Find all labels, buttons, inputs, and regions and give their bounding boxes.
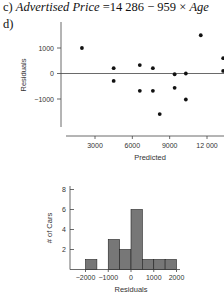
residual-histogram: 2468−2000−1000010002000Residuals# of Car… [45, 186, 184, 294]
histogram-bar [142, 260, 153, 270]
hist-x-tick-label: 2000 [169, 274, 185, 281]
hist-x-tick-label: 0 [129, 274, 133, 281]
data-point [199, 33, 203, 37]
histogram-bar [86, 260, 97, 270]
x-tick-label: 3000 [87, 142, 103, 149]
data-point [158, 112, 162, 116]
data-point [112, 79, 116, 83]
data-point [138, 63, 142, 67]
hist-x-axis-title: Residuals [115, 285, 148, 294]
data-point [173, 72, 177, 76]
data-point [221, 56, 224, 60]
x-axis-title: Predicted [134, 153, 166, 162]
residual-scatter-plot: 10000−100030006000900012 000PredictedRes… [19, 22, 224, 162]
data-point [138, 89, 142, 93]
data-point [184, 72, 188, 76]
histogram-bar [131, 210, 142, 270]
histogram-bar [120, 250, 131, 270]
x-tick-label: 12 000 [196, 142, 218, 149]
y-axis-title: Residuals [19, 58, 28, 91]
hist-y-tick-label: 2 [62, 246, 66, 253]
data-point [184, 98, 188, 102]
histogram-bar [154, 260, 165, 270]
hist-x-tick-label: −2000 [76, 274, 96, 281]
x-tick-label: 9000 [162, 142, 178, 149]
x-tick-label: 6000 [125, 142, 141, 149]
hist-x-tick-label: −1000 [98, 274, 118, 281]
hist-x-tick-label: 1000 [146, 274, 162, 281]
hist-y-axis-title: # of Cars [45, 213, 54, 244]
hist-y-tick-label: 8 [62, 186, 66, 193]
data-point [221, 69, 224, 73]
hist-y-tick-label: 4 [62, 226, 66, 233]
data-point [151, 89, 155, 93]
data-point [173, 86, 177, 90]
y-tick-label: −1000 [34, 96, 54, 103]
data-point [112, 66, 116, 70]
hist-y-tick-label: 6 [62, 206, 66, 213]
data-point [151, 66, 155, 70]
histogram-bar [165, 260, 176, 270]
y-tick-label: 0 [50, 70, 54, 77]
histogram-bar [108, 240, 119, 270]
data-point [80, 46, 84, 50]
y-tick-label: 1000 [38, 45, 54, 52]
charts-canvas: 10000−100030006000900012 000PredictedRes… [0, 0, 224, 295]
